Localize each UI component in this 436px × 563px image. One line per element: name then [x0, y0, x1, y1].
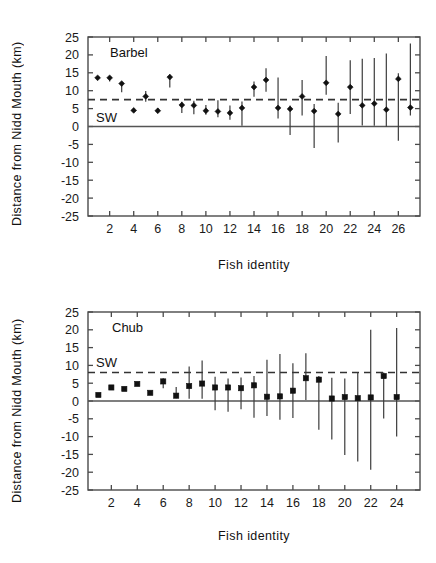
y-tick-label: -20: [61, 192, 79, 206]
y-tick-label: 25: [65, 306, 79, 320]
sw-reference-label: SW: [96, 355, 118, 370]
x-tick-label: 2: [106, 222, 113, 236]
data-point-marker: [264, 394, 269, 399]
data-point-marker: [148, 390, 153, 395]
data-point-marker: [311, 108, 317, 114]
y-tick-label: 25: [65, 31, 79, 45]
x-tick-label: 22: [364, 496, 378, 510]
data-point-marker: [323, 80, 329, 86]
data-point-marker: [329, 396, 334, 401]
x-axis-label-chub: Fish identity: [88, 529, 420, 543]
x-tick-label: 18: [295, 222, 309, 236]
y-tick-label: -25: [61, 484, 79, 498]
data-point-marker: [191, 102, 197, 108]
panel-chub: Distance from Nidd Mouth (km) 2520151050…: [0, 285, 436, 563]
data-point-marker: [167, 74, 173, 80]
data-point-marker: [287, 106, 293, 112]
data-point-marker: [239, 105, 245, 111]
x-tick-label: 10: [199, 222, 213, 236]
data-point-marker: [122, 386, 127, 391]
data-point-marker: [359, 102, 365, 108]
data-point-marker: [225, 385, 230, 390]
y-tick-label: -15: [61, 448, 79, 462]
y-tick-label: 0: [72, 395, 79, 409]
data-point-marker: [179, 102, 185, 108]
data-point-marker: [155, 108, 161, 114]
x-tick-label: 16: [271, 222, 285, 236]
y-tick-label: 20: [65, 48, 79, 62]
fish-movement-figure: Distance from Nidd Mouth (km) 2520151050…: [0, 0, 436, 563]
y-tick-label: 15: [65, 341, 79, 355]
data-point-marker: [277, 394, 282, 399]
data-point-marker: [227, 110, 233, 116]
data-point-marker: [143, 94, 149, 100]
x-tick-label: 2: [108, 496, 115, 510]
data-point-marker: [131, 107, 137, 113]
data-point-marker: [355, 396, 360, 401]
y-tick-label: -25: [61, 210, 79, 224]
data-point-marker: [187, 383, 192, 388]
x-tick-label: 24: [367, 222, 381, 236]
data-point-marker: [263, 77, 269, 83]
y-tick-label: -20: [61, 466, 79, 480]
data-point-marker: [212, 385, 217, 390]
x-tick-label: 24: [390, 496, 404, 510]
y-tick-label: -10: [61, 430, 79, 444]
x-tick-label: 26: [391, 222, 405, 236]
data-point-marker: [368, 395, 373, 400]
x-tick-label: 6: [160, 496, 167, 510]
x-tick-label: 10: [208, 496, 222, 510]
data-point-marker: [96, 392, 101, 397]
data-point-marker: [251, 383, 256, 388]
y-tick-label: -5: [68, 412, 79, 426]
data-point-marker: [161, 379, 166, 384]
data-point-marker: [394, 394, 399, 399]
x-tick-label: 20: [319, 222, 333, 236]
data-point-marker: [383, 107, 389, 113]
data-point-marker: [395, 76, 401, 82]
x-tick-label: 16: [286, 496, 300, 510]
data-point-marker: [251, 84, 257, 90]
data-point-marker: [107, 75, 113, 81]
data-point-marker: [342, 394, 347, 399]
data-point-marker: [119, 81, 125, 87]
data-point-marker: [407, 105, 413, 111]
data-point-marker: [290, 388, 295, 393]
y-tick-label: 0: [72, 120, 79, 134]
y-tick-label: 5: [72, 377, 79, 391]
data-point-marker: [371, 101, 377, 107]
data-point-marker: [303, 376, 308, 381]
y-tick-label: 20: [65, 323, 79, 337]
data-point-marker: [381, 373, 386, 378]
data-point-marker: [316, 377, 321, 382]
x-axis-label-barbel: Fish identity: [88, 258, 420, 272]
y-tick-label: -5: [68, 138, 79, 152]
y-tick-label: 10: [65, 84, 79, 98]
x-tick-label: 8: [186, 496, 193, 510]
x-tick-label: 4: [134, 496, 141, 510]
chart-chub: 2520151050-5-10-15-20-252468101214161820…: [0, 285, 436, 563]
y-tick-label: 5: [72, 102, 79, 116]
x-tick-label: 18: [312, 496, 326, 510]
x-tick-label: 14: [260, 496, 274, 510]
data-point-marker: [275, 105, 281, 111]
data-point-marker: [215, 109, 221, 115]
x-tick-label: 22: [343, 222, 357, 236]
y-tick-label: 15: [65, 66, 79, 80]
x-tick-label: 12: [223, 222, 237, 236]
data-point-marker: [200, 381, 205, 386]
data-point-marker: [299, 94, 305, 100]
data-point-marker: [203, 108, 209, 114]
data-point-marker: [174, 393, 179, 398]
y-tick-label: -15: [61, 174, 79, 188]
x-tick-label: 6: [154, 222, 161, 236]
sw-reference-label: SW: [96, 110, 118, 125]
x-tick-label: 4: [130, 222, 137, 236]
data-point-marker: [347, 84, 353, 90]
panel-barbel: Distance from Nidd Mouth (km) 2520151050…: [0, 0, 436, 290]
y-tick-label: -10: [61, 156, 79, 170]
series-title: Chub: [112, 320, 143, 335]
data-point-marker: [95, 75, 101, 81]
data-point-marker: [335, 111, 341, 117]
x-tick-label: 20: [338, 496, 352, 510]
